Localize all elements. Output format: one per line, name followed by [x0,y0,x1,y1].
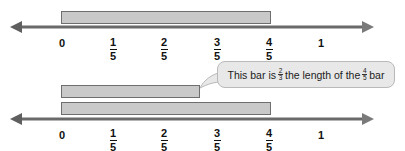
left-arrow-icon [10,113,22,125]
denominator: 5 [363,75,367,82]
top-tick-1-5: 1 5 [103,37,123,62]
callout-fraction-2-3: 2 3 [278,68,283,82]
top-tick-1: 1 [311,38,331,49]
callout-text-middle: the length of the [285,69,360,81]
callout-fraction-4-5: 4 5 [362,68,367,82]
numerator: 1 [110,128,116,139]
numerator: 4 [266,37,272,48]
bottom-two-thirds-bar [61,85,200,98]
bottom-tick-4-5: 4 5 [259,128,279,151]
top-tick-2-5: 2 5 [154,37,174,62]
top-number-line-axis [0,19,405,35]
bottom-tick-2-5: 2 5 [154,128,174,151]
bottom-tick-3-5: 3 5 [207,128,227,151]
bottom-tick-1: 1 [311,130,331,141]
top-tick-0: 0 [52,38,72,49]
denominator: 5 [214,51,220,62]
denominator: 5 [161,51,167,62]
bottom-tick-1-5: 1 5 [103,128,123,151]
numerator: 2 [161,37,167,48]
top-tick-3-5: 3 5 [207,37,227,62]
right-arrow-icon [362,21,374,33]
denominator: 5 [214,142,220,151]
denominator: 5 [266,142,272,151]
denominator: 5 [110,142,116,151]
callout-text-before: This bar is [228,69,276,81]
numerator: 3 [214,128,220,139]
left-arrow-icon [10,21,22,33]
numerator: 4 [266,128,272,139]
bottom-tick-0: 0 [52,130,72,141]
right-arrow-icon [362,113,374,125]
callout-bubble: This bar is 2 3 the length of the 4 5 ba… [217,61,395,88]
fraction-bar-diagram: 0 1 5 2 5 3 5 4 5 1 This bar is 2 3 the … [0,0,405,151]
denominator: 5 [110,51,116,62]
numerator: 2 [161,128,167,139]
denominator: 5 [161,142,167,151]
numerator: 1 [110,37,116,48]
callout-text-after: bar [369,69,384,81]
top-tick-4-5: 4 5 [259,37,279,62]
denominator: 3 [279,75,283,82]
numerator: 3 [214,37,220,48]
bottom-number-line-axis [0,111,405,127]
